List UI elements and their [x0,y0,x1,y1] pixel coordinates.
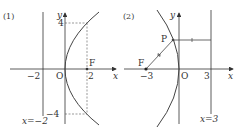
panel-1-label: (1) [3,12,14,21]
panel-2: (2) y x O F P −3 3 x=3 [123,10,233,127]
tick-2: 2 [88,71,94,81]
origin-label: O [181,71,188,81]
tick-neg2: −2 [27,71,40,81]
directrix-label: x=3 [200,114,219,124]
focus-point [86,68,89,71]
tick-neg3: −3 [140,71,154,81]
origin-label: O [56,71,63,81]
x-axis-label: x [113,71,118,81]
point-p [172,39,175,42]
focus-label: F [138,58,144,68]
panel-2-label: (2) [123,12,134,21]
point-p-label: P [161,34,167,44]
tick-3: 3 [204,71,210,81]
focus-label: F [89,58,95,68]
directrix-label: x=−2 [22,116,48,126]
parabola-curve [157,10,179,127]
panel-1: (1) y x O F −2 2 4 −4 x=−2 [3,10,118,126]
diagram-canvas: (1) y x O F −2 2 4 −4 x=−2 (2) [0,0,241,136]
tick-4: 4 [58,18,64,28]
tick-neg4: −4 [46,109,60,119]
segment-fp [146,40,173,69]
x-axis-label: x [228,71,233,81]
parabola-curve [65,12,99,125]
y-axis-label: y [169,10,176,20]
